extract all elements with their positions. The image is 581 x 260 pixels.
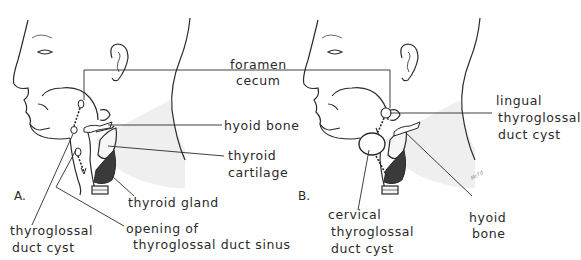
label-hyoid-bone-b-line2: bone xyxy=(472,226,506,241)
label-hyoid-bone-a: hyoid bone xyxy=(224,118,300,133)
label-thyroid-gland: thyroid gland xyxy=(128,195,219,210)
thyroglossal-duct-path-b xyxy=(359,108,391,178)
label-thyroglossal-duct-cyst-line2: duct cyst xyxy=(12,240,75,255)
label-thyroid-cartilage-line2: cartilage xyxy=(228,165,288,180)
label-opening-sinus-line2: thyroglossal duct sinus xyxy=(133,237,291,252)
label-thyroid-cartilage: thyroid xyxy=(228,148,276,163)
label-cervical-cyst-line2: thyroglossal xyxy=(331,224,414,239)
label-cervical-cyst: cervical xyxy=(328,207,381,222)
panel-b-letter: B. xyxy=(298,189,310,203)
label-thyroglossal-duct-cyst: thyroglossal xyxy=(10,223,93,238)
label-hyoid-bone-b: hyoid xyxy=(469,210,506,225)
label-lingual-cyst-line2: thyroglossal xyxy=(498,110,581,125)
label-lingual-cyst-line3: duct cyst xyxy=(498,127,561,142)
thyroglossal-duct-figure: A. foramen cecum hyoid bone thyroid cart… xyxy=(0,0,581,260)
label-lingual-cyst: lingual xyxy=(496,93,542,108)
label-foramen-cecum: foramen xyxy=(230,57,287,72)
label-opening-sinus: opening of xyxy=(126,221,199,236)
label-foramen-cecum-line2: cecum xyxy=(236,73,281,88)
label-cervical-cyst-line3: duct cyst xyxy=(331,241,394,256)
panel-a-letter: A. xyxy=(14,189,26,203)
